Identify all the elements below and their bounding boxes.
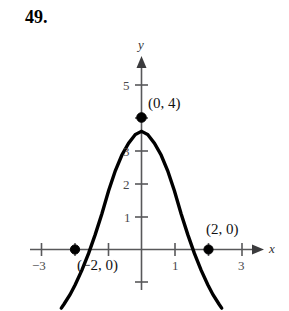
point-vertex — [137, 113, 147, 123]
y-tick-label-2: 2 — [123, 178, 130, 191]
y-tick-label-5: 5 — [123, 79, 130, 92]
y-axis-arrow-icon — [137, 56, 147, 68]
y-axis-label: y — [138, 38, 144, 51]
y-tick-label-3: 3 — [123, 145, 130, 158]
x-axis-label: x — [269, 242, 275, 255]
x-tick-label-3: 3 — [238, 259, 245, 272]
y-tick-label-1: 1 — [124, 211, 131, 224]
x-axis-arrow-icon — [252, 245, 264, 255]
point-label-left-root: (−2, 0) — [77, 258, 118, 273]
x-tick-label-neg3: −3 — [32, 259, 46, 272]
point-right-root — [204, 245, 213, 254]
figure-container: 49. y x 5 3 2 1 − — [0, 0, 289, 311]
x-tick-label-1: 1 — [172, 259, 179, 272]
point-left-root — [70, 245, 79, 254]
point-label-right-root: (2, 0) — [206, 222, 239, 237]
point-label-vertex: (0, 4) — [148, 96, 181, 111]
